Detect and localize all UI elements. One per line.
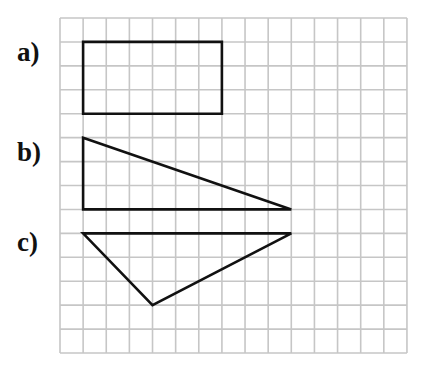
label-c: c) bbox=[17, 229, 38, 256]
grid-diagram bbox=[0, 0, 425, 370]
label-b: b) bbox=[17, 139, 41, 166]
label-a: a) bbox=[17, 39, 40, 66]
